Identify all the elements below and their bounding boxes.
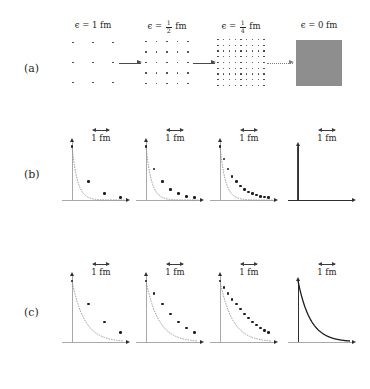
lattice-site [235, 68, 236, 69]
lattice-site [240, 45, 241, 46]
curve-exponential-decay [206, 272, 276, 352]
plot-b-1: 1 fm [58, 138, 128, 210]
lattice-site [246, 45, 247, 46]
fraction: 12 [166, 20, 172, 34]
data-point [239, 308, 242, 311]
scale-bar-cap-left [92, 262, 96, 266]
lattice-site [229, 73, 230, 74]
arrow-head [137, 60, 142, 64]
lattice-site [240, 50, 241, 51]
data-point [169, 188, 172, 191]
lattice-site [263, 79, 264, 80]
lattice-site [145, 62, 146, 63]
lattice-site [229, 85, 230, 86]
row-label-b: (b) [24, 168, 40, 181]
unit-fm: fm [100, 20, 111, 30]
epsilon-label-3: ϵ = 14 fm [196, 20, 286, 34]
lattice-site [112, 62, 114, 64]
data-point [259, 327, 262, 330]
epsilon-label-4: ϵ = 0 fm [274, 20, 364, 30]
lattice-site [72, 82, 74, 84]
lattice-site [223, 62, 224, 63]
lattice-site [92, 82, 94, 84]
scale-bar-cap-right [332, 262, 336, 266]
lattice-grid-1 [73, 43, 113, 83]
scale-bar-cap-left [92, 128, 96, 132]
epsilon-symbol: ϵ [147, 21, 152, 31]
lattice-site [223, 50, 224, 51]
lattice-site [240, 73, 241, 74]
lattice-site [187, 83, 188, 84]
lattice-site [263, 68, 264, 69]
lattice-site [229, 62, 230, 63]
lattice-site [258, 39, 259, 40]
scale-bar-cap-left [318, 262, 322, 266]
scale-bar-label: 1 fm [165, 133, 184, 143]
data-point [263, 329, 266, 332]
lattice-grid-3 [218, 40, 264, 86]
curve-exponential-decay-continuous [284, 272, 354, 352]
lattice-site [263, 62, 264, 63]
lattice-site [235, 73, 236, 74]
unit-fm: fm [249, 21, 260, 31]
lattice-site [258, 73, 259, 74]
plot-b-3: 1 fm [206, 138, 276, 210]
row-label-a: (a) [24, 62, 39, 75]
lattice-site [252, 45, 253, 46]
lattice-site [217, 68, 218, 69]
curve-exponential-decay [132, 138, 202, 210]
lattice-site [252, 39, 253, 40]
scale-bar-cap-right [254, 262, 258, 266]
curve-exponential-decay [58, 272, 128, 352]
lattice-site [246, 50, 247, 51]
lattice-site [217, 85, 218, 86]
lattice-site [263, 39, 264, 40]
scale-bar-cap-right [180, 262, 184, 266]
lattice-site [246, 79, 247, 80]
lattice-site [240, 56, 241, 57]
lattice-site [156, 41, 157, 42]
plot-c-4: 1 fm [284, 272, 354, 352]
lattice-site [187, 72, 188, 73]
lattice-site [166, 72, 167, 73]
lattice-site [229, 50, 230, 51]
lattice-site [217, 45, 218, 46]
scale-bar-cap-right [254, 128, 258, 132]
row-label-c: (c) [24, 306, 39, 319]
scale-bar-cap-left [240, 128, 244, 132]
data-point [169, 313, 172, 316]
lattice-site [229, 68, 230, 69]
lattice-site [217, 73, 218, 74]
data-point [235, 180, 238, 183]
lattice-site [246, 56, 247, 57]
epsilon-symbol: ϵ [221, 21, 226, 31]
arrow-2-solid [193, 63, 215, 64]
unit-fm: fm [326, 20, 337, 30]
lattice-site [156, 83, 157, 84]
equals-sign: = [82, 20, 89, 30]
lattice-site [223, 39, 224, 40]
lattice-site [263, 50, 264, 51]
lattice-site [235, 62, 236, 63]
data-point [119, 331, 122, 334]
lattice-site [258, 50, 259, 51]
lattice-site [217, 39, 218, 40]
lattice-site [258, 45, 259, 46]
lattice-site [252, 56, 253, 57]
data-point [247, 191, 250, 194]
lattice-site [112, 42, 114, 44]
data-point [177, 321, 180, 324]
data-point [161, 180, 164, 183]
scale-bar-cap-right [180, 128, 184, 132]
scale-bar-cap-left [166, 128, 170, 132]
plot-b-2: 1 fm [132, 138, 202, 210]
lattice-site [246, 68, 247, 69]
lattice-site [263, 73, 264, 74]
lattice-site [246, 73, 247, 74]
data-point [267, 331, 270, 334]
lattice-site [252, 50, 253, 51]
lattice-site [258, 68, 259, 69]
lattice-site [223, 73, 224, 74]
scale-bar-label: 1 fm [165, 267, 184, 277]
lattice-site [166, 62, 167, 63]
